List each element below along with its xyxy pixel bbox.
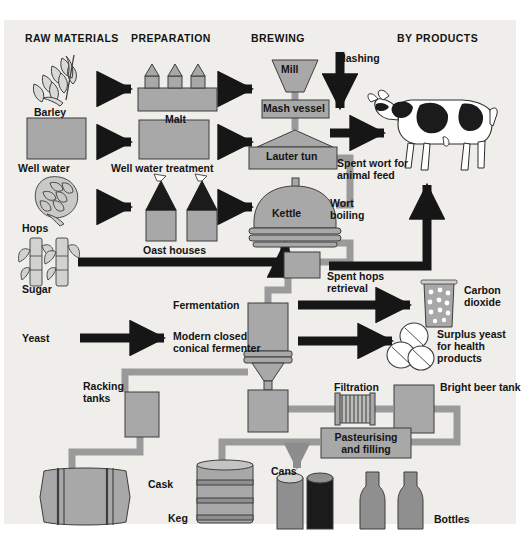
- label-bottles: Bottles: [434, 514, 470, 526]
- label-surplus-yeast: Surplus yeast for health products: [437, 329, 506, 364]
- label-spent-hops-retrieval: Spent hops retrieval: [327, 271, 384, 295]
- label-filtration: Filtration: [334, 382, 379, 394]
- label-conical-fermenter: Modern closed conical fermenter: [173, 331, 261, 355]
- beaker-icon: [421, 280, 457, 327]
- racking-tank-icon: [125, 392, 159, 437]
- label-racking-tanks: Racking tanks: [83, 381, 124, 405]
- label-carbon-dioxide: Carbon dioxide: [464, 285, 501, 309]
- bright-beer-tank-icon: [394, 385, 434, 433]
- diagram-canvas: [0, 0, 526, 550]
- header-brewing: BREWING: [251, 33, 305, 45]
- label-malt: Malt: [165, 114, 186, 126]
- label-pasteurising-and-filling: Pasteurising and filling: [330, 432, 402, 456]
- header-raw-materials: RAW MATERIALS: [25, 33, 119, 45]
- label-sugar: Sugar: [22, 284, 52, 296]
- label-hops: Hops: [22, 223, 48, 235]
- label-lauter-tun: Lauter tun: [266, 151, 317, 163]
- label-barley: Barley: [34, 107, 66, 119]
- label-mashing: Mashing: [337, 53, 380, 65]
- label-fermentation: Fermentation: [173, 300, 240, 312]
- label-oast-houses: Oast houses: [143, 245, 206, 257]
- label-cask: Cask: [148, 479, 173, 491]
- label-mill: Mill: [281, 64, 299, 76]
- label-mash-vessel: Mash vessel: [263, 103, 325, 115]
- keg-icon: [197, 460, 253, 523]
- label-well-water-treatment: Well water treatment: [111, 163, 214, 175]
- treatment-box-icon: [139, 120, 209, 159]
- spent-hops-box-icon: [284, 252, 320, 278]
- header-by-products: BY PRODUCTS: [397, 33, 478, 45]
- header-preparation: PREPARATION: [131, 33, 211, 45]
- label-cans: Cans: [271, 466, 297, 478]
- label-spent-wort-animal-feed: Spent wort for animal feed: [337, 158, 408, 182]
- label-keg: Keg: [168, 513, 188, 525]
- label-kettle: Kettle: [272, 208, 301, 220]
- label-bright-beer-tank: Bright beer tank: [440, 382, 521, 394]
- brewing-process-diagram: RAW MATERIALS PREPARATION BREWING BY PRO…: [0, 0, 526, 550]
- label-wort-boiling: Wort boiling: [330, 198, 364, 222]
- filter-icon: [335, 393, 375, 425]
- label-yeast: Yeast: [22, 333, 49, 345]
- transfer-tank-icon: [248, 390, 288, 432]
- diagram-background: [4, 20, 516, 524]
- label-well-water: Well water: [18, 163, 70, 175]
- water-block-icon: [27, 118, 86, 159]
- cask-icon: [40, 468, 130, 525]
